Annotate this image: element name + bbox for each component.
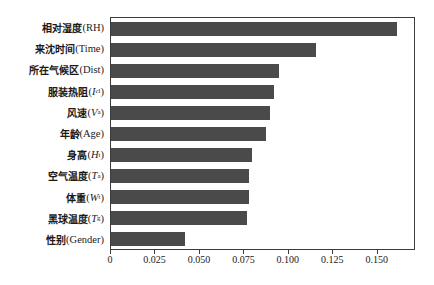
category-label: 所在气候区 (Dist) — [0, 59, 108, 80]
x-tick-label: 0.100 — [277, 254, 300, 265]
category-label-paren-close: ) — [101, 149, 105, 160]
bar — [111, 64, 279, 78]
category-label: 年龄 (Age) — [0, 123, 108, 144]
category-label-symbol: Time — [79, 43, 101, 54]
bar-row — [111, 123, 414, 144]
category-label-cn: 所在气候区 — [29, 62, 79, 77]
bar-chart-figure: 相对湿度 (RH)来沈时间 (Time)所在气候区 (Dist)服装热阻 (Ic… — [0, 0, 434, 285]
bar — [111, 22, 397, 36]
category-label-symbol: Gender — [70, 234, 101, 245]
bar — [111, 106, 270, 120]
bar-row — [111, 60, 414, 81]
category-label-symbol: H — [91, 149, 99, 160]
category-label: 体重 (Wt) — [0, 187, 108, 208]
category-label-cn: 相对湿度 — [42, 20, 82, 35]
x-axis-tick-labels: 00.0250.0500.0750.1000.1250.150 — [110, 254, 415, 272]
bar — [111, 43, 316, 57]
category-label-cn: 风速 — [67, 105, 87, 120]
bar-series — [111, 18, 414, 249]
bar-row — [111, 39, 414, 60]
category-label-cn: 身高 — [67, 147, 87, 162]
category-label-symbol: RH — [86, 22, 101, 33]
category-label: 来沈时间 (Time) — [0, 38, 108, 59]
category-label-paren-close: ) — [101, 170, 105, 181]
bar-row — [111, 228, 414, 249]
category-label-paren-close: ) — [101, 128, 105, 139]
bar — [111, 85, 274, 99]
category-label-paren-close: ) — [101, 213, 105, 224]
plot-area — [110, 17, 415, 250]
x-tick-label: 0.150 — [366, 254, 389, 265]
x-tick-label: 0.025 — [143, 254, 166, 265]
category-label-cn: 年龄 — [60, 126, 80, 141]
category-label: 风速 (Va) — [0, 102, 108, 123]
bar-row — [111, 102, 414, 123]
category-label-cn: 来沈时间 — [35, 41, 75, 56]
category-label-symbol: Age — [83, 128, 101, 139]
category-label-cn: 体重 — [66, 190, 86, 205]
x-tick-label: 0.050 — [188, 254, 211, 265]
category-label-cn: 服装热阻 — [48, 84, 88, 99]
category-label-cn: 黑球温度 — [48, 211, 88, 226]
category-label-paren-close: ) — [101, 43, 105, 54]
category-label: 相对湿度 (RH) — [0, 17, 108, 38]
bar — [111, 148, 252, 162]
bar — [111, 127, 266, 141]
category-label-symbol: W — [90, 192, 99, 203]
category-label: 空气温度 (Ta) — [0, 165, 108, 186]
x-tick-label: 0.075 — [232, 254, 255, 265]
bar-row — [111, 18, 414, 39]
category-label-symbol: Dist — [83, 64, 101, 75]
category-label-paren-close: ) — [101, 234, 105, 245]
x-tick-label: 0 — [108, 254, 113, 265]
category-label-paren-close: ) — [101, 22, 105, 33]
bar-row — [111, 186, 414, 207]
category-label: 性别 (Gender) — [0, 229, 108, 250]
bar — [111, 169, 249, 183]
bar — [111, 211, 247, 225]
category-label-paren-close: ) — [101, 64, 105, 75]
category-label: 服装热阻 (Icl) — [0, 81, 108, 102]
bar — [111, 232, 185, 246]
bar-row — [111, 144, 414, 165]
bar-row — [111, 207, 414, 228]
x-tick-label: 0.125 — [321, 254, 344, 265]
category-axis-labels: 相对湿度 (RH)来沈时间 (Time)所在气候区 (Dist)服装热阻 (Ic… — [0, 17, 108, 250]
bar-row — [111, 165, 414, 186]
category-label: 身高 (Ht) — [0, 144, 108, 165]
category-label-paren-close: ) — [101, 107, 105, 118]
bar-row — [111, 81, 414, 102]
category-label-paren-close: ) — [101, 86, 105, 97]
category-label-paren-close: ) — [101, 192, 105, 203]
category-label-cn: 空气温度 — [48, 168, 88, 183]
bar — [111, 190, 249, 204]
category-label-cn: 性别 — [46, 232, 66, 247]
category-label: 黑球温度 (Tg) — [0, 208, 108, 229]
